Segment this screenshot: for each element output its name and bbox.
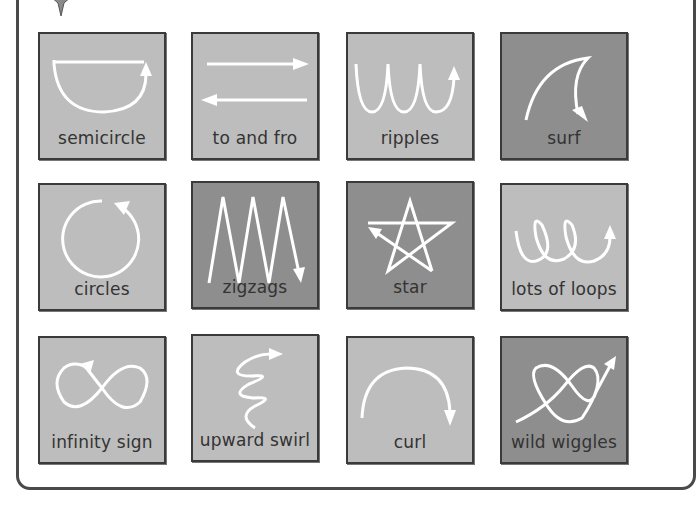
star-icon bbox=[48, 0, 74, 18]
tile-label: zigzags bbox=[193, 277, 317, 297]
tile-infinity-sign[interactable]: infinity sign bbox=[38, 336, 166, 464]
tile-lots-of-loops[interactable]: lots of loops bbox=[500, 183, 628, 311]
tile-to-and-fro[interactable]: to and fro bbox=[191, 32, 319, 160]
tile-label: curl bbox=[348, 432, 472, 452]
tile-surf[interactable]: surf bbox=[500, 32, 628, 160]
tile-zigzags[interactable]: zigzags bbox=[191, 181, 319, 309]
tile-star[interactable]: star bbox=[346, 181, 474, 309]
tile-label: upward swirl bbox=[193, 430, 317, 450]
tile-semicircle[interactable]: semicircle bbox=[38, 32, 166, 160]
tile-label: infinity sign bbox=[40, 432, 164, 452]
tile-wild-wiggles[interactable]: wild wiggles bbox=[500, 336, 628, 464]
tile-label: ripples bbox=[348, 128, 472, 148]
tile-upward-swirl[interactable]: upward swirl bbox=[191, 334, 319, 462]
tile-label: semicircle bbox=[40, 128, 164, 148]
tile-curl[interactable]: curl bbox=[346, 336, 474, 464]
tile-label: surf bbox=[502, 128, 626, 148]
tile-circles[interactable]: circles bbox=[38, 183, 166, 311]
tile-ripples[interactable]: ripples bbox=[346, 32, 474, 160]
tile-label: star bbox=[348, 277, 472, 297]
tile-label: circles bbox=[40, 279, 164, 299]
tile-label: lots of loops bbox=[502, 279, 626, 299]
tile-label: wild wiggles bbox=[502, 432, 626, 452]
tile-label: to and fro bbox=[193, 128, 317, 148]
